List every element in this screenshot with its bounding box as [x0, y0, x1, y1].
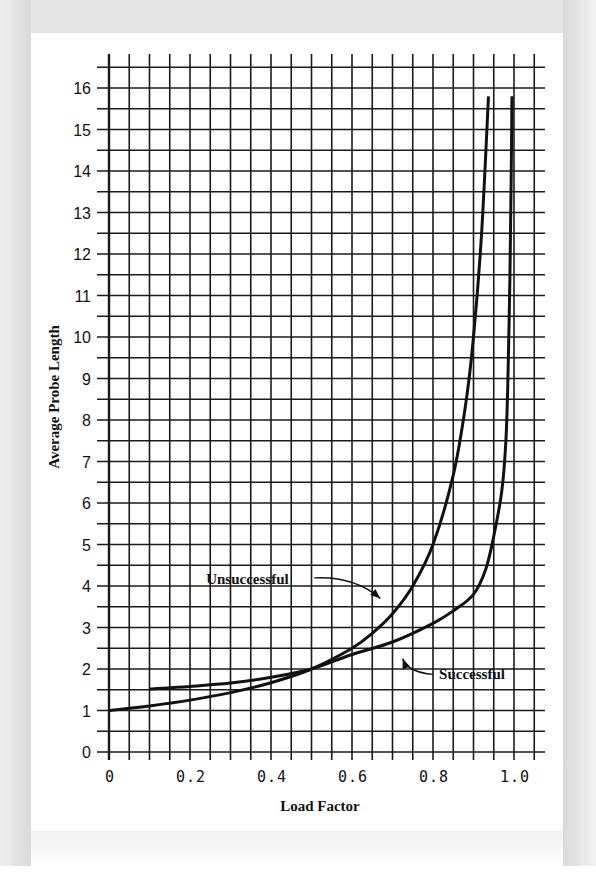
y-tick-label: 14	[73, 163, 91, 180]
x-tick-label: 0.8	[419, 768, 449, 786]
y-axis-title: Average Probe Length	[46, 325, 62, 469]
y-tick-label: 11	[74, 288, 91, 305]
probe-length-chart: 012345678910111213141516 00.20.40.60.81.…	[0, 0, 596, 878]
y-tick-label: 8	[82, 412, 91, 429]
x-tick-label: 0.2	[176, 768, 206, 786]
x-axis-tick-labels: 00.20.40.60.81.0	[105, 768, 530, 786]
y-tick-label: 4	[82, 578, 91, 595]
x-tick-label: 0.4	[257, 768, 287, 786]
y-tick-label: 12	[73, 246, 91, 263]
curve-successful	[150, 96, 512, 689]
y-tick-label: 7	[82, 454, 91, 471]
y-tick-label: 1	[82, 703, 91, 720]
y-tick-label: 10	[73, 329, 91, 346]
y-tick-label: 6	[82, 495, 91, 512]
annotation-label-unsuccessful: Unsuccessful	[206, 571, 289, 587]
x-tick-label: 0	[105, 768, 115, 786]
annotation-label-successful: Successful	[439, 666, 505, 682]
y-tick-label: 9	[82, 371, 91, 388]
x-tick-label: 1.0	[500, 768, 530, 786]
y-tick-label: 5	[82, 537, 91, 554]
y-tick-label: 15	[73, 122, 91, 139]
y-tick-label: 13	[73, 205, 91, 222]
curve-unsuccessful	[109, 96, 488, 710]
chart-grid	[97, 54, 545, 760]
y-tick-label: 0	[82, 744, 91, 761]
arrowhead-icon	[403, 659, 410, 670]
annotation-arrow	[314, 578, 380, 599]
x-axis-title: Load Factor	[280, 798, 360, 814]
y-tick-label: 16	[73, 80, 91, 97]
y-tick-label: 2	[82, 661, 91, 678]
y-tick-label: 3	[82, 620, 91, 637]
x-tick-label: 0.6	[338, 768, 368, 786]
y-axis-tick-labels: 012345678910111213141516	[73, 80, 91, 761]
